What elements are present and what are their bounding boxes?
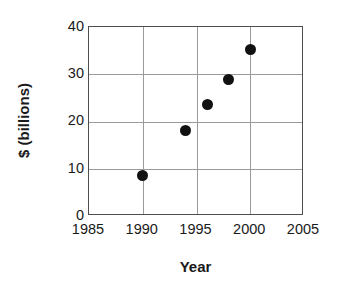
x-tick-label: 1990 [112,222,172,238]
y-tick-label: 20 [40,113,84,128]
data-point [137,170,148,181]
data-point [180,125,191,136]
y-axis-label-container: $ (billions) [10,26,36,215]
y-tick-label: 40 [40,19,84,34]
y-axis-label: $ (billions) [15,83,32,158]
x-tick-label: 2005 [273,222,333,238]
gridline-horizontal [89,122,302,123]
plot-area [88,26,303,215]
x-tick-label: 2000 [219,222,279,238]
y-axis-tick-labels: 40 30 20 10 0 [36,0,84,297]
chart-figure: $ (billions) 40 30 20 10 0 1985 1990 199… [0,0,364,297]
data-point [202,99,213,110]
data-point [223,74,234,85]
data-point [245,44,256,55]
gridline-vertical [143,27,144,214]
x-axis-tick-labels: 1985 1990 1995 2000 2005 [0,222,364,244]
gridline-vertical [250,27,251,214]
x-tick-label: 1995 [166,222,226,238]
y-tick-label: 10 [40,161,84,176]
gridline-horizontal [89,74,302,75]
x-axis-label: Year [88,258,303,275]
gridline-horizontal [89,169,302,170]
y-tick-label: 30 [40,66,84,81]
x-tick-label: 1985 [58,222,118,238]
gridline-vertical [197,27,198,214]
